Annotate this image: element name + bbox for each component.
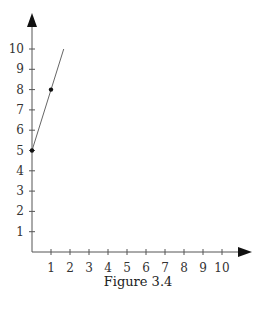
y-axis-arrow-icon — [27, 13, 37, 27]
data-line — [32, 49, 64, 151]
series — [30, 49, 64, 153]
y-tick-label: 1 — [16, 225, 24, 239]
y-tick-label: 5 — [16, 144, 24, 158]
axes — [27, 13, 252, 257]
x-axis-arrow-icon — [238, 247, 252, 257]
x-tick-label: 6 — [142, 261, 150, 275]
figure-caption: Figure 3.4 — [104, 274, 173, 289]
x-tick-label: 7 — [161, 261, 169, 275]
y-tick-label: 9 — [16, 62, 24, 76]
data-point — [49, 87, 53, 91]
x-tick-label: 9 — [199, 261, 207, 275]
y-tick-label: 7 — [16, 103, 24, 117]
y-tick-label: 3 — [16, 184, 24, 198]
y-tick-label: 2 — [16, 204, 24, 218]
chart: 1234567891012345678910 Figure 3.4 — [0, 0, 264, 311]
x-tick-label: 3 — [85, 261, 93, 275]
x-tick-label: 5 — [123, 261, 131, 275]
x-tick-label: 1 — [47, 261, 55, 275]
y-tick-label: 10 — [9, 42, 24, 56]
x-tick-label: 2 — [66, 261, 74, 275]
y-tick-label: 8 — [16, 83, 24, 97]
ticks: 1234567891012345678910 — [9, 42, 230, 275]
x-tick-label: 8 — [180, 261, 188, 275]
x-tick-label: 4 — [104, 261, 112, 275]
y-tick-label: 6 — [16, 123, 24, 137]
x-tick-label: 10 — [214, 261, 229, 275]
data-point — [30, 148, 34, 152]
y-tick-label: 4 — [16, 164, 24, 178]
